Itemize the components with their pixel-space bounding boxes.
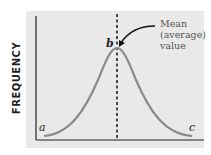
annotation-line: value (160, 40, 206, 51)
mean-annotation: Mean (average) value (160, 18, 206, 51)
annotation-line: (average) (160, 29, 206, 40)
point-c-label: c (189, 121, 195, 134)
arrow-icon (121, 26, 155, 43)
annotation-line: Mean (160, 18, 206, 29)
point-a-label: a (39, 121, 46, 134)
bell-curve (44, 48, 192, 136)
point-b-label: b (106, 37, 114, 50)
